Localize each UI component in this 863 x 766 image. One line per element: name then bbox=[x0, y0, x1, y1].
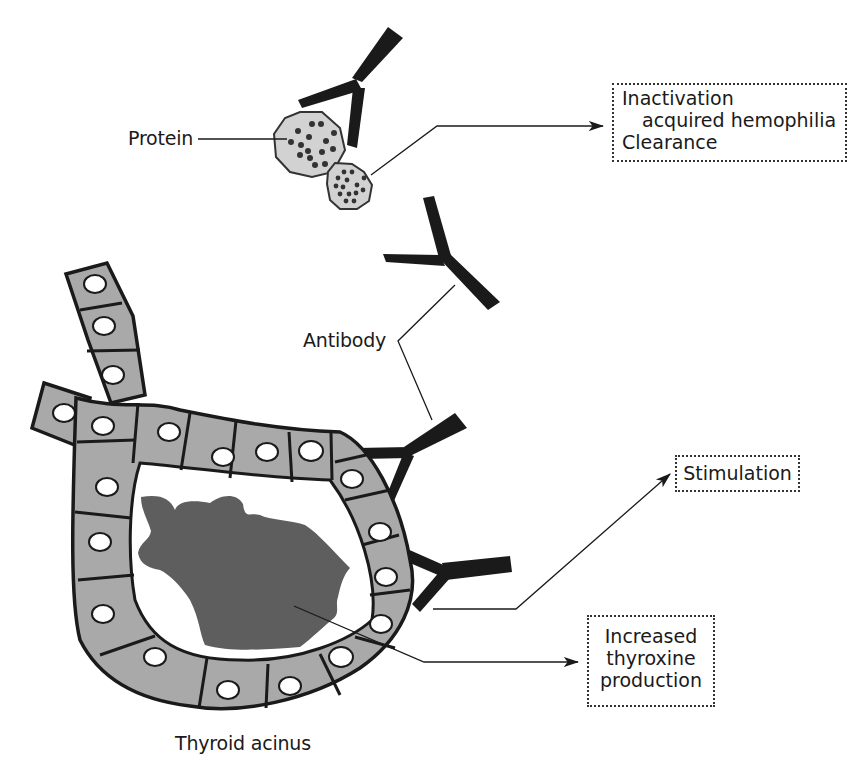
inactivation-line-1: Inactivation bbox=[622, 87, 845, 109]
thyroxine-line-2: thyroxine bbox=[589, 647, 713, 669]
antibody-free-icon bbox=[383, 196, 500, 310]
protein-label: Protein bbox=[128, 127, 193, 149]
inactivation-box: Inactivation acquired hemophilia Clearan… bbox=[612, 83, 847, 162]
thyroxine-box: Increased thyroxine production bbox=[587, 615, 715, 707]
stimulation-line-1: Stimulation bbox=[677, 462, 798, 484]
protein-small-icon bbox=[327, 163, 372, 209]
thyroxine-line-1: Increased bbox=[589, 625, 713, 647]
antibody-label: Antibody bbox=[303, 329, 386, 351]
thyroxine-line-3: production bbox=[589, 669, 713, 691]
thyroid-acinus-label: Thyroid acinus bbox=[175, 732, 311, 754]
inactivation-line-3: Clearance bbox=[622, 131, 845, 153]
inactivation-line-2: acquired hemophilia bbox=[622, 109, 845, 131]
stimulation-box: Stimulation bbox=[675, 455, 800, 492]
antibody-bound-icon bbox=[403, 548, 512, 612]
